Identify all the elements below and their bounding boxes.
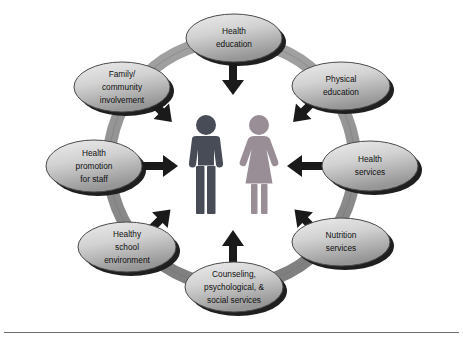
arrow-down-icon [222,62,244,95]
female-figure [240,115,279,214]
male-figure [189,115,223,214]
node-physical-education[interactable]: Physical education [292,62,390,110]
node-health-services[interactable]: Health services [322,141,418,191]
node-health-promotion-for-staff[interactable]: Health promotion for staff [46,140,142,192]
bottom-divider [4,332,459,333]
node-family-community-involvement[interactable]: Family/ community involvement [74,62,170,112]
cycle-diagram: Health education Physical education Heal… [0,0,463,341]
node-nutrition-services[interactable]: Nutrition services [292,218,390,266]
node-healthy-school-environment[interactable]: Healthy school environment [78,222,176,272]
arrow-left-icon [287,155,322,177]
node-counseling-psychological-social-services[interactable]: Counseling, psychological, & social serv… [185,262,283,312]
center-figures [189,115,279,214]
arrow-up-icon [222,230,244,264]
node-health-education[interactable]: Health education [186,14,282,62]
figure-canvas: Health education Physical education Heal… [0,0,463,341]
arrow-right-icon [143,155,178,177]
